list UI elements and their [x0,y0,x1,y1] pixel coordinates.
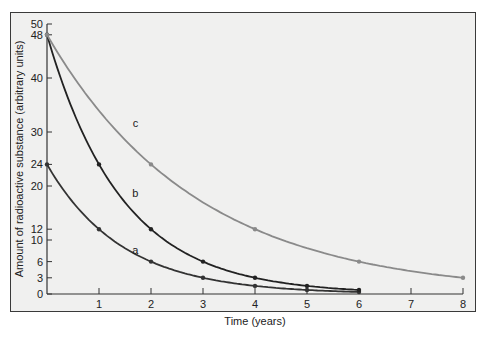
data-point-a [97,227,101,231]
x-tick-label: 5 [304,298,310,310]
curve-label-b: b [132,187,138,199]
x-tick-label: 6 [356,298,362,310]
x-tick-label: 1 [96,298,102,310]
data-point-c [45,33,49,37]
y-axis-title: Amount of radioactive substance (arbitra… [13,41,25,278]
x-tick-label: 8 [460,298,466,310]
y-tick-label: 6 [37,256,43,268]
curve-b [47,35,359,290]
data-point-a [253,284,257,288]
data-point-b [201,259,205,263]
chart-plot: 036101220243040485012345678Time (years)A… [0,0,484,342]
x-axis-title: Time (years) [224,315,285,327]
x-tick-label: 2 [148,298,154,310]
y-tick-label: 3 [37,272,43,284]
data-point-c [357,259,361,263]
data-point-a [201,276,205,280]
y-tick-label: 24 [31,158,43,170]
curve-label-c: c [133,117,139,129]
data-point-b [149,227,153,231]
x-tick-label: 3 [200,298,206,310]
y-tick-label: 50 [31,18,43,30]
data-point-a [305,288,309,292]
y-tick-label: 12 [31,223,43,235]
data-point-b [97,162,101,166]
y-tick-label: 20 [31,180,43,192]
data-point-a [45,162,49,166]
data-point-c [253,227,257,231]
x-tick-label: 7 [408,298,414,310]
y-tick-label: 0 [37,288,43,300]
data-point-c [461,276,465,280]
curve-a [47,164,359,292]
curve-c [47,35,463,278]
y-tick-label: 48 [31,29,43,41]
y-tick-label: 30 [31,126,43,138]
curve-label-a: a [132,244,139,256]
x-tick-label: 4 [252,298,258,310]
y-tick-label: 10 [31,234,43,246]
data-point-b [253,276,257,280]
data-point-c [149,162,153,166]
data-point-b [305,284,309,288]
data-point-a [149,259,153,263]
data-point-b [357,288,361,292]
y-tick-label: 40 [31,72,43,84]
